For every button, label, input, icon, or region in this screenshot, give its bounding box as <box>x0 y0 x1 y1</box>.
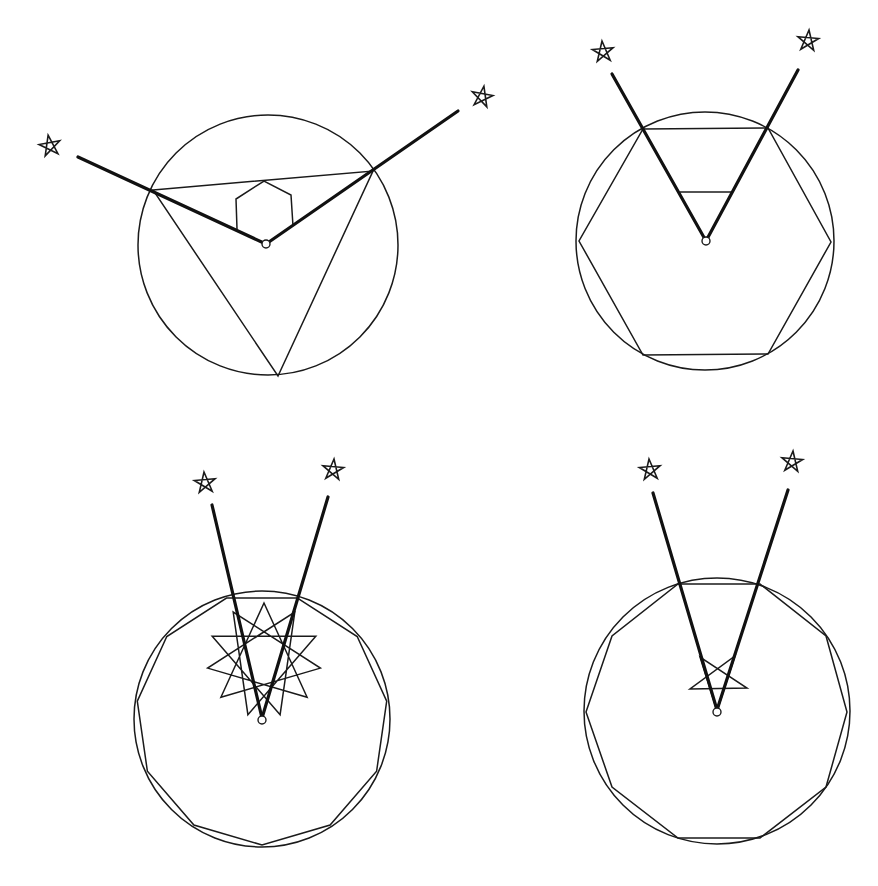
panel-top-left <box>39 86 493 376</box>
viewer-point <box>258 716 266 724</box>
viewer-point <box>262 240 270 248</box>
panel-bottom-right <box>584 451 850 844</box>
sight-ray-left <box>212 505 262 718</box>
sight-ray-right <box>262 497 328 718</box>
viewer-point <box>713 708 721 716</box>
inner-hexagon <box>236 181 293 229</box>
star-icon-right <box>472 86 493 107</box>
sight-ray-right <box>717 490 788 710</box>
panel-bottom-left <box>134 459 390 847</box>
star-icon-left <box>194 472 215 492</box>
sight-ray-left <box>653 493 717 710</box>
star-icon-left <box>639 459 660 479</box>
geometry-figure <box>0 0 878 886</box>
star-icon-right <box>323 459 344 479</box>
star-icon-right <box>782 451 803 471</box>
star-polygon-11 <box>208 603 321 715</box>
panel-top-right <box>576 30 834 370</box>
star-icon-right <box>798 30 819 50</box>
star-icon-left <box>592 41 613 61</box>
sight-ray-right <box>706 70 798 241</box>
star-icon-left <box>39 135 60 156</box>
sight-ray-left <box>78 157 266 244</box>
viewer-point <box>702 237 710 245</box>
